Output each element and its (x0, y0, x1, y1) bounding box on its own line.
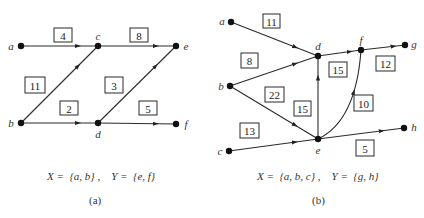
edge-a-c: 4 (21, 28, 98, 46)
node-a: a (8, 40, 24, 52)
node-e: e (315, 136, 321, 156)
node-e: e (173, 40, 189, 52)
edge-weight-box: 15 (329, 62, 347, 77)
edge-weight-label: 12 (380, 58, 391, 70)
edge-weight-label: 4 (60, 30, 66, 42)
edge-weight-box: 8 (130, 28, 148, 42)
edge-b-d: 8 (230, 53, 318, 86)
node-label: c (218, 145, 223, 157)
node-dot-icon (228, 19, 234, 25)
node-dot-icon (173, 43, 179, 49)
edge-weight-box: 22 (265, 87, 284, 102)
caption-a-sets: X = {a, b} , Y = {e, f} (47, 170, 155, 182)
sublabel-a: (a) (89, 194, 101, 206)
node-d: d (315, 40, 321, 59)
node-dot-icon (315, 53, 321, 59)
node-label: f (359, 34, 364, 46)
edge-d-e: 3 (98, 46, 176, 123)
node-f: f (358, 34, 365, 53)
edge-weight-label: 8 (136, 30, 142, 42)
node-dot-icon (18, 120, 24, 126)
edge-weight-label: 2 (66, 103, 72, 115)
node-f: f (173, 118, 190, 130)
node-d: d (95, 120, 101, 140)
node-dot-icon (402, 42, 408, 48)
caption-b-sets: X = {a, b, c} , Y = {g, h} (257, 170, 379, 182)
node-dot-icon (226, 148, 232, 154)
node-a: a (219, 15, 234, 27)
sublabel-b: (b) (312, 194, 325, 206)
edge-weight-box: 11 (25, 77, 45, 93)
edge-weight-box: 8 (241, 53, 258, 68)
edge-weight-box: 15 (294, 101, 311, 116)
edge-weight-label: 15 (297, 103, 309, 115)
node-label: h (411, 121, 417, 133)
node-label: b (218, 80, 224, 92)
node-label: f (184, 118, 189, 130)
node-dot-icon (401, 125, 407, 131)
node-dot-icon (95, 43, 101, 49)
edge-weight-label: 15 (333, 64, 345, 76)
diagram-b: 1182215151210135abcdfgeh (218, 14, 418, 157)
node-h: h (401, 121, 417, 133)
edge-c-e: 8 (98, 28, 176, 46)
edge-weight-box: 5 (139, 101, 157, 115)
node-b: b (8, 117, 24, 129)
node-label: c (96, 30, 101, 42)
edge-weight-box: 11 (263, 14, 280, 28)
node-dot-icon (18, 43, 24, 49)
node-dot-icon (95, 120, 101, 126)
edge-weight-label: 11 (266, 16, 277, 28)
node-label: d (315, 40, 321, 52)
edge-weight-label: 13 (244, 125, 256, 137)
node-label: g (411, 38, 417, 50)
node-dot-icon (227, 83, 233, 89)
edge-weight-box: 12 (376, 56, 395, 71)
node-b: b (218, 80, 233, 92)
network-flow-diagrams: 4811325acebdf 1182215151210135abcdfgeh (0, 0, 424, 218)
edge-weight-box: 3 (105, 77, 123, 93)
node-label: a (8, 40, 14, 52)
node-label: e (184, 40, 189, 52)
diagram-a: 4811325acebdf (8, 28, 189, 140)
edge-weight-label: 8 (247, 55, 253, 67)
node-label: b (8, 117, 14, 129)
node-g: g (402, 38, 417, 50)
edge-d-f: 5 (98, 101, 176, 124)
edge-weight-label: 22 (269, 89, 280, 101)
node-label: a (219, 15, 225, 27)
edge-weight-box: 10 (354, 95, 373, 111)
edge-weight-label: 5 (145, 103, 151, 115)
node-c: c (218, 145, 233, 157)
edge-weight-box: 5 (356, 140, 374, 156)
edge-weight-box: 4 (54, 28, 72, 42)
edge-c-e: 13 (229, 123, 318, 151)
edge-weight-label: 3 (111, 80, 117, 92)
edge-a-d: 11 (231, 14, 318, 56)
node-dot-icon (315, 136, 321, 142)
edge-d-f: 15 (318, 50, 361, 77)
node-c: c (95, 30, 101, 49)
edge-weight-box: 13 (240, 123, 259, 138)
edge-weight-label: 5 (362, 143, 368, 155)
edge-f-g: 12 (361, 45, 405, 71)
node-dot-icon (173, 121, 179, 127)
edge-weight-box: 2 (60, 101, 78, 115)
edge-weight-label: 10 (358, 98, 370, 110)
node-dot-icon (358, 47, 364, 53)
edge-weight-label: 11 (30, 80, 41, 92)
edge-e-h: 5 (318, 128, 404, 156)
node-label: e (316, 144, 321, 156)
node-label: d (95, 128, 101, 140)
